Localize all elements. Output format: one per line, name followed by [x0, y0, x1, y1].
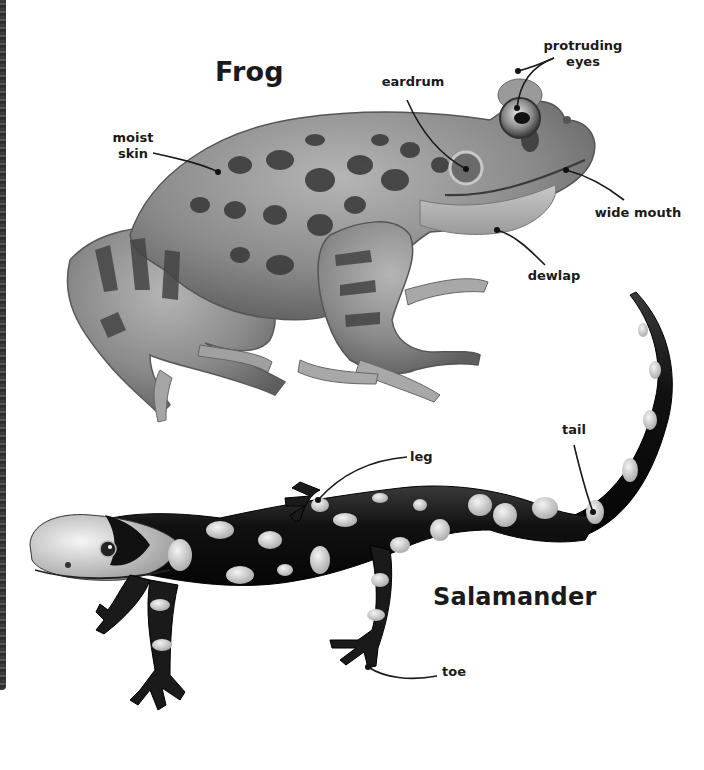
label-moist-skin-line1: moist	[108, 130, 158, 146]
label-leg: leg	[410, 449, 440, 465]
label-moist-skin-line2: skin	[108, 146, 158, 162]
label-eardrum: eardrum	[378, 74, 448, 90]
illustration-canvas	[0, 0, 704, 770]
leader-toe	[368, 667, 437, 678]
label-protruding-eyes-line1: protruding	[538, 38, 628, 54]
label-dewlap: dewlap	[524, 268, 584, 284]
label-toe: toe	[442, 664, 472, 680]
label-wide-mouth: wide mouth	[588, 205, 688, 221]
salamander-title: Salamander	[433, 583, 596, 611]
label-tail: tail	[559, 422, 589, 438]
label-moist-skin: moist skin	[108, 130, 158, 162]
label-protruding-eyes-line2: eyes	[538, 54, 628, 70]
leader-tail	[574, 445, 593, 512]
leader-dewlap	[497, 230, 545, 265]
label-protruding-eyes: protruding eyes	[538, 38, 628, 70]
frog-title: Frog	[215, 56, 284, 87]
